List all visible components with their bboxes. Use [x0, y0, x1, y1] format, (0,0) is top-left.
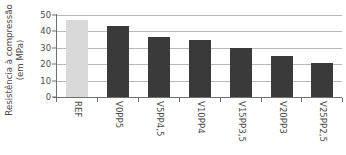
x-tick-label-V25PP25-text: V25PP2,5 [317, 101, 326, 142]
x-axis-tick-labels: REF V0PP5 V5PP4,5 V10PP4 V15PP3,5 V20PP3… [56, 101, 342, 155]
bar-group-V15PP35 [220, 15, 261, 97]
bar-group-REF [56, 15, 97, 97]
x-tick-label-V15PP35-text: V15PP3,5 [236, 101, 245, 142]
bar-group-V10PP4 [179, 15, 220, 97]
bar-V10PP4 [189, 40, 211, 97]
bar-group-V20PP3 [261, 15, 302, 97]
x-tick-label-V5PP45: V5PP4,5 [138, 101, 179, 153]
x-tick-label-V25PP25: V25PP2,5 [301, 101, 342, 153]
x-tick-label-V10PP4: V10PP4 [179, 101, 220, 153]
bar-series [56, 15, 342, 97]
bar-V20PP3 [271, 56, 293, 97]
bar-V15PP35 [230, 48, 252, 97]
y-tick-label-0: 0 [31, 93, 51, 101]
bar-V0PP5 [107, 26, 129, 97]
x-tick-label-V20PP3-text: V20PP3 [277, 101, 286, 134]
y-tick-label-40: 40 [31, 27, 51, 35]
x-tick-label-V0PP5: V0PP5 [97, 101, 138, 153]
x-tick-label-V20PP3: V20PP3 [261, 101, 302, 153]
x-tick-label-V5PP45-text: V5PP4,5 [154, 101, 163, 136]
y-tick-label-20: 20 [31, 60, 51, 68]
y-axis-title-line-2: (em MPa) [15, 4, 26, 115]
bar-REF [66, 20, 88, 97]
bar-V25PP25 [311, 63, 333, 97]
y-tick-label-10: 10 [31, 77, 51, 85]
x-tick-label-V0PP5-text: V0PP5 [113, 101, 122, 128]
x-tick-label-REF-text: REF [72, 101, 81, 117]
compressive-strength-bar-chart: Resistência à compressão (em MPa) 50 40 … [0, 0, 346, 155]
x-tick-label-V10PP4-text: V10PP4 [195, 101, 204, 134]
y-tick-label-50: 50 [31, 11, 51, 19]
y-axis-title-line-1: Resistência à compressão [4, 4, 15, 115]
bar-group-V25PP25 [301, 15, 342, 97]
x-tick-mark-7 [342, 98, 343, 102]
bar-V5PP45 [148, 37, 170, 97]
bar-group-V0PP5 [97, 15, 138, 97]
x-tick-label-V15PP35: V15PP3,5 [220, 101, 261, 153]
y-axis-title: Resistência à compressão (em MPa) [0, 0, 30, 120]
bar-group-V5PP45 [138, 15, 179, 97]
y-axis-tick-labels: 50 40 30 20 10 0 [31, 0, 51, 155]
y-tick-label-30: 30 [31, 44, 51, 52]
x-tick-label-REF: REF [56, 101, 97, 153]
